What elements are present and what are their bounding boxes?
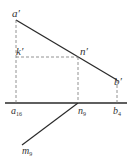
label-n9: n9 xyxy=(78,105,86,117)
projection-diagram: a′ k′ n′ b′ a16 n9 b4 m9 xyxy=(0,0,134,160)
label-a16: a16 xyxy=(11,105,22,117)
label-k-prime: k′ xyxy=(16,45,24,57)
line-a-b-prime xyxy=(16,20,117,80)
label-n-prime: n′ xyxy=(80,45,89,57)
label-a-prime: a′ xyxy=(12,7,21,19)
label-b4: b4 xyxy=(113,105,121,117)
label-m9: m9 xyxy=(22,145,32,157)
line-n9-m9 xyxy=(22,103,78,145)
label-b-prime: b′ xyxy=(114,75,123,87)
